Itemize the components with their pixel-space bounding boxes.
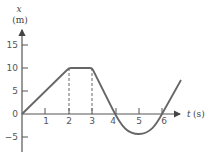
x-tick-3: 3: [89, 116, 95, 126]
position-time-chart: x (m) t (s) 15 10 5 0 −5 1 2 3 4 5 6: [0, 0, 208, 160]
y-tick-5: 5: [12, 86, 18, 96]
y-tick-10: 10: [7, 63, 19, 73]
x-tick-1: 1: [43, 116, 49, 126]
y-ticks: [22, 45, 28, 137]
x-axis-unit-label: (s): [193, 109, 205, 119]
y-tick-15: 15: [7, 40, 18, 50]
y-axis-unit-label: (m): [12, 15, 28, 25]
x-tick-2: 2: [66, 116, 72, 126]
x-ticks: [45, 108, 162, 114]
x-tick-6: 6: [161, 116, 167, 126]
y-axis-var-label: x: [16, 4, 21, 14]
x-tick-4: 4: [110, 116, 116, 126]
y-tick-0: 0: [12, 109, 18, 119]
y-tick-neg5: −5: [5, 132, 18, 142]
x-axis-var-label: t: [187, 109, 191, 119]
x-tick-5: 5: [136, 116, 142, 126]
